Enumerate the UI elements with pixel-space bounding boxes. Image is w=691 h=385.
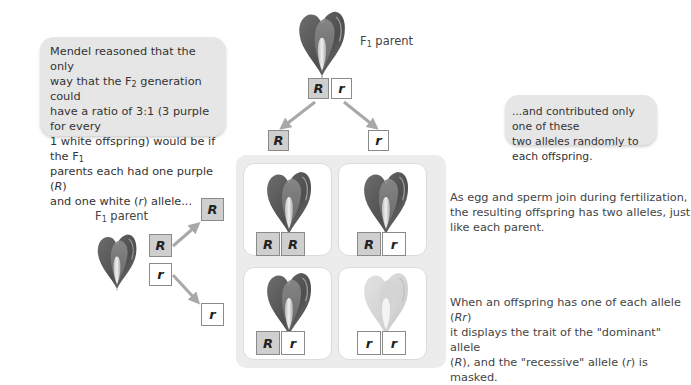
offspring-allele: r <box>382 232 406 256</box>
offspring-allele: r <box>357 331 381 355</box>
arrow-icon <box>284 102 315 126</box>
left-parent-label: F1 parent <box>95 209 148 223</box>
note-line: like each parent. <box>450 220 690 235</box>
white-flower-icon <box>361 268 411 338</box>
note-line: (R), and the "recessive" allele (r) is m… <box>450 355 691 385</box>
left-gamete-r: r <box>201 303 224 326</box>
offspring-allele: R <box>281 232 305 256</box>
offspring-allele: R <box>256 331 280 355</box>
purple-flower-icon <box>95 229 139 293</box>
dominance-note: When an offspring has one of each allele… <box>450 295 691 385</box>
arrow-icon <box>173 226 196 246</box>
purple-flower-icon <box>264 268 314 338</box>
purple-flower-icon <box>361 167 411 237</box>
offspring-allele: R <box>256 232 280 256</box>
left-gamete-R: R <box>201 198 224 221</box>
left-parent-allele-R: R <box>149 234 172 257</box>
purple-flower-icon <box>264 167 314 237</box>
note-line: the resulting offspring has two alleles,… <box>450 205 690 220</box>
note-line: it displays the trait of the "dominant" … <box>450 325 691 355</box>
left-parent-allele-r: r <box>149 263 172 286</box>
offspring-allele: r <box>281 331 305 355</box>
offspring-allele: R <box>357 232 381 256</box>
note-line: When an offspring has one of each allele… <box>450 295 691 325</box>
note-line: As egg and sperm join during fertilizati… <box>450 190 690 205</box>
arrow-icon <box>173 275 196 300</box>
offspring-allele: r <box>382 331 406 355</box>
arrow-icon <box>344 102 374 126</box>
fertilization-note: As egg and sperm join during fertilizati… <box>450 190 690 235</box>
